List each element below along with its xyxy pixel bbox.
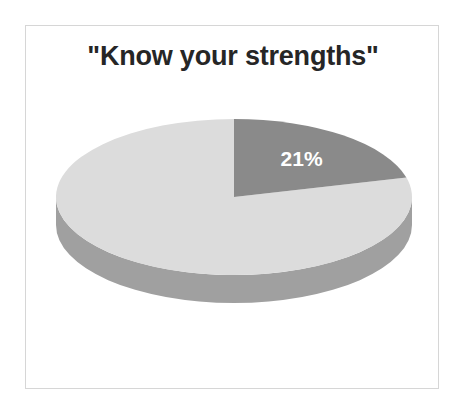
pie-chart-svg: 21% [0, 0, 466, 412]
pie-chart-plot-area: 21% [0, 0, 466, 412]
pie-chart-figure: "Know your strengths" 21% [0, 0, 466, 412]
pie-top-face [56, 119, 412, 275]
pie-slice-label-highlighted: 21% [281, 147, 323, 170]
